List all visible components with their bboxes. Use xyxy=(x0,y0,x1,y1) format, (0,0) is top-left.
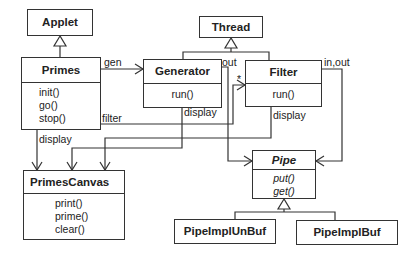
class-pipe: Pipe put() get() xyxy=(252,150,316,199)
op-get: get() xyxy=(253,185,315,198)
role-label-display-primes: display xyxy=(39,133,72,145)
role-label-out: out xyxy=(222,56,237,68)
class-pipe-ops: put() get() xyxy=(253,169,315,198)
op-print: print() xyxy=(55,197,124,210)
class-filter-name: Filter xyxy=(246,61,321,83)
class-thread: Thread xyxy=(199,16,263,38)
class-pipe-impl-buf-name: PipeImplBuf xyxy=(297,221,397,244)
op-init: init() xyxy=(39,86,100,99)
op-stop: stop() xyxy=(39,112,100,125)
class-filter-ops: run() xyxy=(246,83,321,101)
class-applet: Applet xyxy=(27,9,93,36)
role-label-display-filter: display xyxy=(273,109,306,121)
class-generator: Generator run() xyxy=(143,59,222,108)
op-prime: prime() xyxy=(55,210,124,223)
role-label-display-generator: display xyxy=(184,106,217,118)
op-put: put() xyxy=(253,172,315,185)
class-pipe-impl-buf: PipeImplBuf xyxy=(296,220,398,245)
class-pipe-name: Pipe xyxy=(253,151,315,169)
class-pipe-impl-unbuf: PipeImplUnBuf xyxy=(174,219,276,244)
op-go: go() xyxy=(39,99,100,112)
role-label-gen: gen xyxy=(104,56,122,68)
op-clear: clear() xyxy=(55,223,124,236)
class-primes-name: Primes xyxy=(22,58,100,82)
op-run: run() xyxy=(246,88,321,101)
class-pipe-impl-unbuf-name: PipeImplUnBuf xyxy=(175,220,275,243)
op-run: run() xyxy=(144,88,221,101)
class-primes-canvas-name: PrimesCanvas xyxy=(24,171,124,193)
role-label-in-out: in,out xyxy=(324,56,350,68)
role-label-filter: filter xyxy=(102,112,122,124)
class-primes-canvas-ops: print() prime() clear() xyxy=(24,193,124,236)
class-filter: Filter run() xyxy=(245,60,322,107)
class-generator-name: Generator xyxy=(144,60,221,83)
class-primes-canvas: PrimesCanvas print() prime() clear() xyxy=(23,170,125,240)
class-generator-ops: run() xyxy=(144,83,221,101)
class-thread-name: Thread xyxy=(200,17,262,37)
class-primes: Primes init() go() stop() xyxy=(21,57,101,130)
multiplicity-star: * xyxy=(237,73,241,85)
class-applet-name: Applet xyxy=(28,10,92,35)
class-primes-ops: init() go() stop() xyxy=(22,82,100,125)
